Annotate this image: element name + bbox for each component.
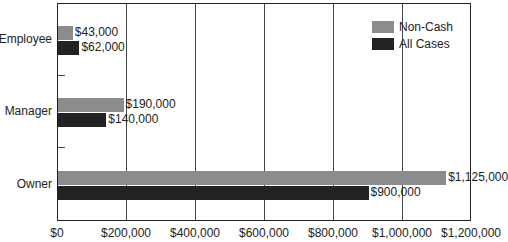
category-label: Manager xyxy=(5,104,52,118)
x-tick-label: $1,200,000 xyxy=(441,226,501,240)
x-tick-label: $400,000 xyxy=(170,226,220,240)
bar xyxy=(58,26,73,40)
legend: Non-CashAll Cases xyxy=(372,18,453,52)
data-label: $62,000 xyxy=(81,40,124,54)
legend-swatch xyxy=(372,38,394,50)
data-label: $190,000 xyxy=(126,97,176,111)
x-tick-label: $200,000 xyxy=(101,226,151,240)
legend-item: All Cases xyxy=(372,35,453,52)
legend-swatch xyxy=(372,21,394,33)
x-tick-label: $0 xyxy=(50,226,63,240)
bar xyxy=(58,41,79,55)
legend-item: Non-Cash xyxy=(372,18,453,35)
legend-label: All Cases xyxy=(399,37,450,51)
data-label: $43,000 xyxy=(75,25,118,39)
legend-label: Non-Cash xyxy=(399,20,453,34)
data-label: $140,000 xyxy=(108,112,158,126)
bar xyxy=(58,98,124,112)
bar xyxy=(58,113,106,127)
category-label: Owner xyxy=(17,177,52,191)
x-tick-label: $1,000,000 xyxy=(372,226,432,240)
data-label: $1,125,000 xyxy=(448,170,508,184)
x-tick-label: $600,000 xyxy=(239,226,289,240)
data-label: $900,000 xyxy=(371,185,421,199)
x-tick-label: $800,000 xyxy=(308,226,358,240)
category-label: Employee xyxy=(0,32,52,46)
y-tick xyxy=(57,147,65,148)
bar xyxy=(58,171,446,185)
y-tick xyxy=(57,75,65,76)
bar xyxy=(58,186,369,200)
